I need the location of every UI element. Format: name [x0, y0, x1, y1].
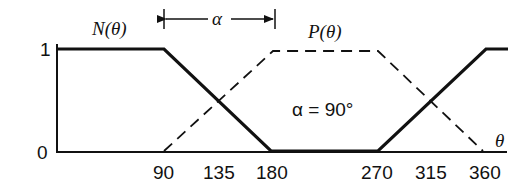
x-tick-360: 360 [469, 162, 501, 183]
p-theta-label: P(θ) [307, 21, 342, 43]
alpha-annotation: α = 90° [292, 99, 353, 120]
n-theta-curve [57, 49, 508, 151]
alpha-symbol: α [212, 8, 223, 29]
n-theta-label: N(θ) [91, 18, 127, 40]
x-tick-180: 180 [256, 162, 288, 183]
y-tick-0: 0 [37, 142, 48, 163]
x-tick-315: 315 [415, 162, 447, 183]
x-tick-270: 270 [361, 162, 393, 183]
x-axis-label: θ [495, 130, 504, 151]
y-tick-1: 1 [40, 39, 51, 60]
x-tick-135: 135 [203, 162, 235, 183]
membership-function-diagram: 1 0 90 135 180 270 315 360 θ N(θ) P(θ) α… [0, 0, 532, 192]
x-tick-90: 90 [153, 162, 174, 183]
